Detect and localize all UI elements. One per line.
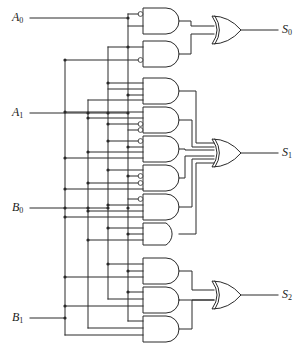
or-gate-s0 — [212, 16, 241, 44]
and-gate-s1-6 — [88, 223, 172, 245]
and-gate-s2-3 — [65, 316, 179, 342]
and-gate-s2-2 — [65, 287, 179, 313]
input-label-b0: B0 — [12, 201, 23, 213]
or-gate-s2 — [212, 281, 241, 309]
and-gate-s0-2 — [65, 41, 179, 67]
and-gate-s1-4 — [65, 165, 179, 191]
and-gate-s1-1 — [88, 78, 179, 104]
output-label-s0: S0 — [282, 23, 292, 35]
input-label-b1: B1 — [12, 311, 23, 323]
vertical-bus-lines — [65, 14, 128, 335]
and-gate-s0-1 — [128, 8, 179, 34]
circuit-schematic — [0, 0, 303, 350]
input-label-a0: A0 — [12, 11, 23, 23]
output-label-s2: S2 — [282, 288, 292, 300]
junction-dots — [63, 16, 129, 319]
and-gate-s1-3 — [65, 136, 179, 162]
input-label-a1: A1 — [12, 106, 23, 118]
and-gate-s1-2 — [65, 107, 179, 133]
output-label-s1: S1 — [282, 146, 292, 158]
or-gate-s1 — [212, 139, 241, 167]
and-gate-s2-1 — [65, 258, 179, 284]
circuit-diagram-figure: A0 A1 B0 B1 S0 S1 S2 — [0, 0, 303, 350]
and-gate-s1-5 — [65, 194, 179, 220]
